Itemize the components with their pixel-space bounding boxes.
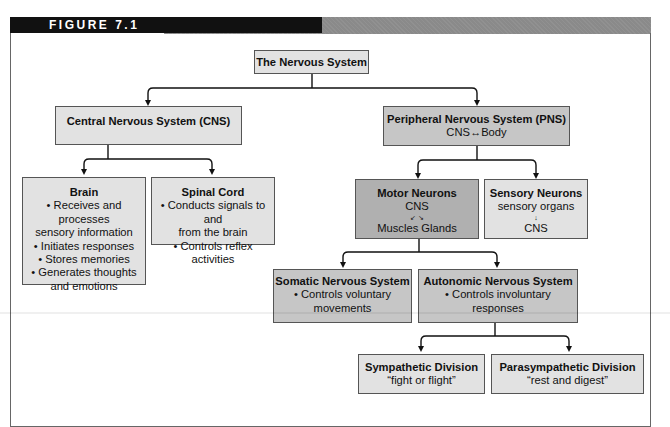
node-nervous-system: The Nervous System	[254, 50, 369, 74]
scan-artifact	[0, 312, 670, 314]
node-brain: Brain • Receives and processes sensory i…	[22, 177, 146, 285]
node-spinal-cord: Spinal Cord • Conducts signals to and fr…	[151, 177, 275, 245]
node-motor-neurons: Motor Neurons CNS ↙ ↘ Muscles Glands	[355, 179, 479, 239]
node-somatic: Somatic Nervous System • Controls volunt…	[273, 269, 412, 323]
node-sensory-neurons: Sensory Neurons sensory organs ↓ CNS	[484, 179, 588, 239]
node-autonomic: Autonomic Nervous System • Controls invo…	[418, 269, 578, 323]
node-sympathetic: Sympathetic Division “fight or flight”	[358, 354, 485, 394]
node-cns: Central Nervous System (CNS)	[55, 106, 242, 145]
figure-label: FIGURE 7.1	[49, 18, 139, 32]
node-pns: Peripheral Nervous System (PNS) CNS↔Body	[383, 106, 570, 146]
node-parasympathetic: Parasympathetic Division “rest and diges…	[491, 354, 644, 394]
